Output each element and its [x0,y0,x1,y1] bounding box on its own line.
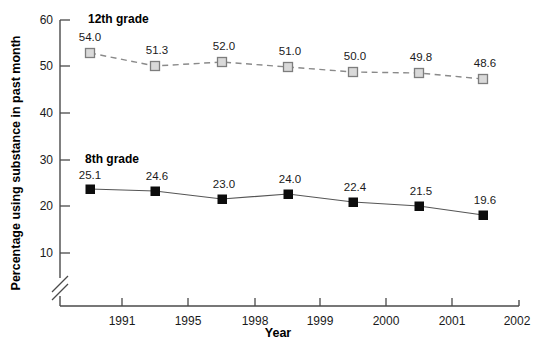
data-label-8th-1997: 24.0 [279,173,301,185]
series-label-8th-grade: 8th grade [85,152,139,166]
data-label-12th-1999: 50.0 [344,50,366,62]
x-tick-label-1991: 1991 [109,314,136,328]
x-tick-label-2000: 2000 [373,314,400,328]
data-label-12th-1993: 51.3 [146,44,168,56]
data-label-8th-1991: 25.1 [79,169,101,181]
y-tick-label-50: 50 [40,59,54,73]
x-tick-label-2002: 2002 [504,314,531,328]
y-tick-label-30: 30 [40,153,54,167]
y-tick-label-40: 40 [40,106,54,120]
x-tick-label-1995: 1995 [175,314,202,328]
data-label-12th-1995: 52.0 [213,40,235,52]
y-tick-label-10: 10 [40,246,54,260]
data-label-8th-1999: 22.4 [344,181,367,193]
data-label-8th-2001: 19.6 [474,194,496,206]
data-label-8th-2000: 21.5 [410,185,432,197]
data-label-12th-2001: 48.6 [474,57,496,69]
data-label-8th-1993: 24.6 [146,170,168,182]
x-axis-ticks [122,298,452,306]
line-chart-plot: 60 50 40 30 20 10 1991 1995 1998 1999 20… [0,0,537,347]
y-axis-ticks [60,20,70,253]
y-tick-label-20: 20 [40,199,54,213]
x-tick-label-2001: 2001 [439,314,466,328]
data-label-12th-1991: 54.0 [79,31,101,43]
data-label-8th-1995: 23.0 [213,178,235,190]
data-label-12th-2000: 49.8 [410,51,432,63]
data-label-12th-1997: 51.0 [279,45,301,57]
series-label-12th-grade: 12th grade [88,12,149,26]
y-tick-label-60: 60 [40,13,54,27]
y-axis-title: Percentage using substance in past month [9,36,23,291]
x-axis-title: Year [265,326,292,340]
x-tick-label-1999: 1999 [307,314,334,328]
chart-container: 60 50 40 30 20 10 1991 1995 1998 1999 20… [0,0,537,347]
